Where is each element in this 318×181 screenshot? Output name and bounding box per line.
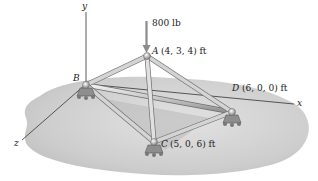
joint-C-name: C — [161, 140, 168, 149]
y-axis-label: y — [82, 2, 87, 11]
joint-D-name: D — [232, 84, 239, 93]
joint-A-name: A — [152, 47, 159, 56]
joint-B-name: B — [73, 74, 80, 83]
joint-A-coords: (4, 3, 4) ft — [161, 47, 206, 56]
joint-A — [144, 53, 151, 60]
joint-C-coords: (5, 0, 6) ft — [170, 140, 215, 149]
joint-D — [229, 109, 236, 116]
load-label: 800 lb — [152, 19, 181, 28]
x-axis-label: x — [297, 99, 302, 108]
z-axis-label: z — [14, 139, 19, 148]
load-arrow-icon — [143, 21, 151, 53]
joint-B — [83, 82, 90, 89]
joint-C — [151, 139, 158, 146]
support-B — [77, 88, 95, 100]
space-truss-diagram: y x z 800 lb A (4, 3, 4) ft B D (6, 0, 0… — [0, 0, 318, 181]
support-D — [223, 115, 241, 127]
joint-D-coords: (6, 0, 0) ft — [242, 84, 287, 93]
